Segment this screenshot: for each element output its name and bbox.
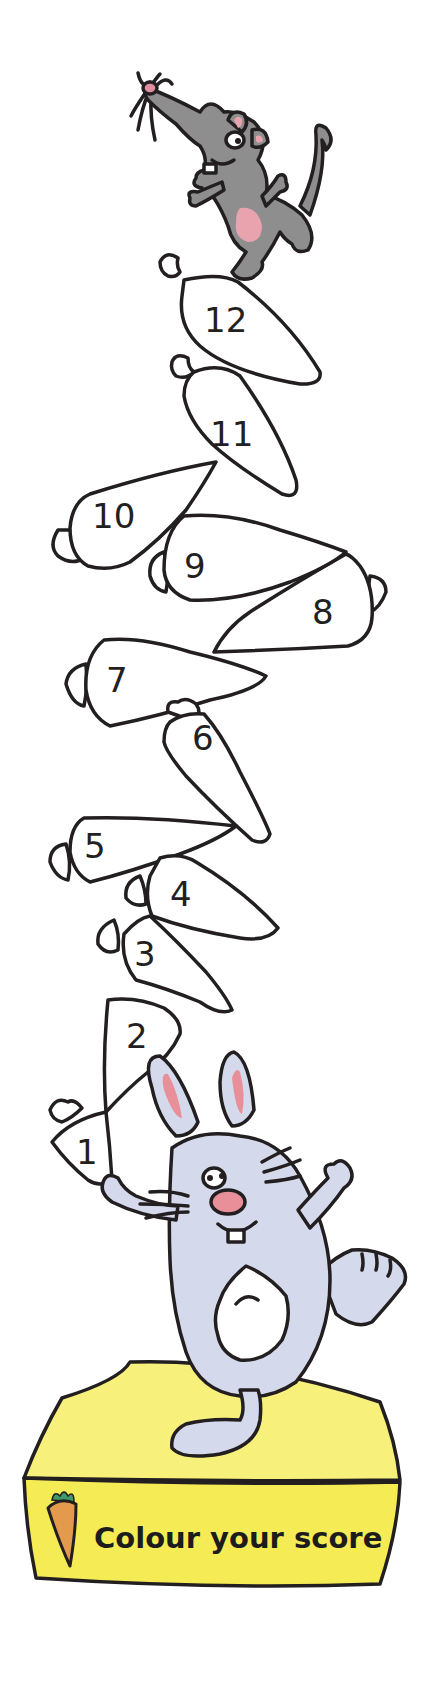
carrot-10-label: 10: [92, 496, 135, 536]
score-carrot-tower-illustration: 12 11 10 8 9 7: [0, 0, 445, 1681]
mouse-teeth: [204, 164, 216, 173]
carrot-12-label: 12: [204, 300, 247, 340]
carrot-9-label: 9: [184, 546, 206, 586]
carrot-7-label: 7: [106, 660, 128, 700]
carrot-1-label: 1: [76, 1132, 98, 1172]
rabbit-pupil: [219, 1173, 225, 1179]
rabbit-teeth: [228, 1230, 244, 1242]
mouse-eye-icon: [226, 132, 244, 148]
carrot-6-label: 6: [192, 718, 214, 758]
carrot-5-label: 5: [84, 826, 106, 866]
carrot-2-label: 2: [126, 1016, 148, 1056]
mouse-nose-icon: [143, 82, 157, 94]
rabbit-nose-icon: [211, 1190, 245, 1214]
carrot-8-label: 8: [312, 592, 334, 632]
mouse-pupil: [235, 138, 241, 144]
caption-colour-your-score: Colour your score: [94, 1521, 382, 1555]
carrot-3-label: 3: [134, 934, 156, 974]
mouse-illustration: [131, 73, 331, 279]
carrot-11-label: 11: [210, 414, 253, 454]
carrot-4-label: 4: [170, 874, 192, 914]
carrot-1[interactable]: 1: [50, 1100, 112, 1184]
rabbit-pupil: [207, 1175, 213, 1181]
yellow-box: Colour your score: [24, 1362, 400, 1586]
carrot-stack: 12 11 10 8 9 7: [50, 255, 386, 1184]
mouse-tail: [300, 125, 331, 215]
